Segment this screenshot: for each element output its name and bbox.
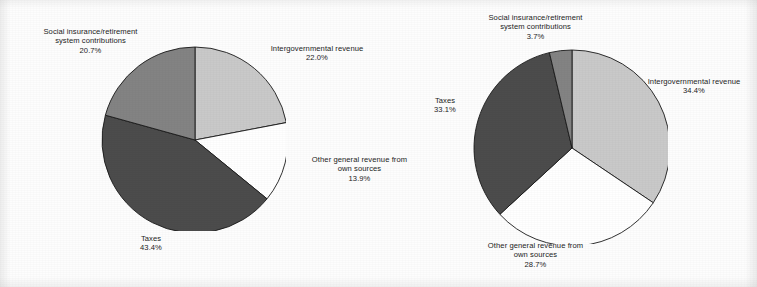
pie-left-label-taxes: Taxes43.4% bbox=[112, 234, 190, 253]
label-line: Taxes bbox=[406, 96, 484, 105]
label-line: 34.4% bbox=[633, 86, 755, 95]
label-line: Intergovernmental revenue bbox=[256, 44, 378, 53]
pie-left-label-other-general-revenue: Other general revenue fromown sources13.… bbox=[297, 155, 422, 183]
label-line: own sources bbox=[473, 250, 598, 259]
pie-right-label-intergovernmental: Intergovernmental revenue34.4% bbox=[633, 77, 755, 96]
label-line: Other general revenue from bbox=[297, 155, 422, 164]
pie-right-label-taxes: Taxes33.1% bbox=[406, 96, 484, 115]
pie-left-label-intergovernmental: Intergovernmental revenue22.0% bbox=[256, 44, 378, 63]
pie-right-label-social-insurance: Social insurance/retirementsystem contri… bbox=[469, 13, 602, 41]
label-line: 33.1% bbox=[406, 105, 484, 114]
label-line: Taxes bbox=[112, 234, 190, 243]
pie-left-label-social-insurance: Social insurance/retirementsystem contri… bbox=[24, 27, 157, 55]
label-line: own sources bbox=[297, 164, 422, 173]
label-line: 22.0% bbox=[256, 53, 378, 62]
pie-chart-left bbox=[100, 45, 286, 231]
label-line: Other general revenue from bbox=[473, 241, 598, 250]
label-line: 43.4% bbox=[112, 243, 190, 252]
label-line: system contributions bbox=[469, 22, 602, 31]
label-line: Social insurance/retirement bbox=[469, 13, 602, 22]
label-line: 3.7% bbox=[469, 32, 602, 41]
label-line: Social insurance/retirement bbox=[24, 27, 157, 36]
label-line: 13.9% bbox=[297, 174, 422, 183]
label-line: 20.7% bbox=[24, 46, 157, 55]
label-line: 28.7% bbox=[473, 260, 598, 269]
label-line: Intergovernmental revenue bbox=[633, 77, 755, 86]
pie-chart-figure: Social insurance/retirementsystem contri… bbox=[0, 0, 757, 287]
pie-right-label-other-general-revenue: Other general revenue fromown sources28.… bbox=[473, 241, 598, 269]
label-line: system contributions bbox=[24, 36, 157, 45]
pie-left-svg bbox=[100, 45, 286, 231]
